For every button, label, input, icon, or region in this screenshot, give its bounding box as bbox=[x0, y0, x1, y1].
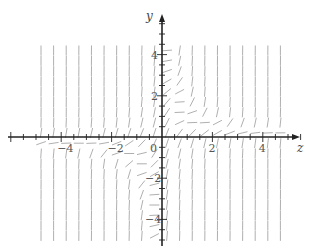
slope-segment bbox=[164, 98, 171, 106]
slope-segment bbox=[192, 56, 193, 66]
slope-segment bbox=[204, 97, 206, 107]
slope-segment bbox=[205, 76, 206, 86]
x-tick-label: −4 bbox=[57, 142, 73, 155]
slope-segment bbox=[104, 118, 105, 128]
slope-segment bbox=[165, 128, 169, 137]
slope-segment bbox=[229, 138, 231, 148]
slope-segment bbox=[255, 138, 256, 148]
slope-segment bbox=[41, 149, 42, 159]
slope-segment bbox=[177, 77, 183, 85]
slope-segment bbox=[230, 97, 231, 107]
slope-segment bbox=[163, 89, 171, 95]
slope-segment bbox=[129, 179, 130, 189]
slope-segment bbox=[238, 132, 248, 134]
slope-segment bbox=[204, 138, 206, 148]
x-axis-arrowhead-icon bbox=[292, 134, 300, 140]
slope-segment bbox=[103, 159, 104, 169]
slope-segment bbox=[142, 76, 143, 86]
slope-segment bbox=[177, 129, 183, 137]
slope-segment bbox=[104, 169, 105, 179]
slope-segment bbox=[79, 159, 80, 169]
slope-segment bbox=[154, 76, 155, 86]
slope-segment bbox=[166, 190, 168, 200]
slope-segment bbox=[166, 138, 169, 148]
slope-segment bbox=[179, 200, 180, 210]
slope-segment bbox=[165, 118, 170, 127]
y-tick-label: 2 bbox=[151, 90, 158, 103]
slope-segment bbox=[91, 159, 92, 169]
slope-segment bbox=[280, 118, 281, 128]
y-tick-label: −2 bbox=[145, 172, 161, 185]
slope-segment bbox=[138, 140, 145, 147]
slope-segment bbox=[192, 149, 194, 159]
slope-segment bbox=[192, 169, 193, 179]
slope-segment bbox=[164, 108, 169, 116]
slope-segment bbox=[217, 138, 219, 148]
slope-segment bbox=[128, 169, 131, 179]
slope-segment bbox=[189, 129, 196, 136]
slope-segment bbox=[116, 118, 117, 128]
slope-segment bbox=[166, 169, 168, 179]
slope-segment bbox=[141, 107, 143, 117]
slope-segment bbox=[192, 66, 193, 76]
slope-segment bbox=[116, 107, 117, 117]
slope-segment bbox=[153, 128, 156, 138]
x-tick-label: 0 bbox=[150, 142, 157, 155]
slope-segment bbox=[230, 107, 231, 117]
slope-segment bbox=[129, 97, 130, 107]
slope-segment bbox=[53, 149, 54, 159]
slope-segment bbox=[267, 138, 268, 148]
slope-segment bbox=[129, 107, 130, 117]
slope-segment bbox=[179, 159, 181, 169]
slope-segment bbox=[178, 139, 182, 148]
slope-segment bbox=[225, 131, 234, 135]
slope-segment bbox=[200, 122, 210, 123]
slope-segment bbox=[153, 118, 156, 128]
slope-segment bbox=[267, 118, 269, 128]
slope-segment bbox=[79, 118, 80, 128]
slope-segment bbox=[142, 87, 143, 97]
slope-segment bbox=[241, 118, 244, 127]
slope-segment bbox=[179, 179, 180, 189]
x-tick-label: −2 bbox=[108, 142, 124, 155]
slope-segment bbox=[230, 149, 231, 159]
slope-segment bbox=[175, 102, 185, 103]
slope-segment bbox=[167, 231, 168, 241]
slope-segment bbox=[162, 60, 172, 62]
slope-segment bbox=[141, 210, 142, 220]
slope-segment bbox=[91, 118, 92, 128]
slope-segment bbox=[90, 149, 93, 158]
slope-segment bbox=[242, 138, 244, 148]
slope-segment bbox=[154, 66, 155, 76]
slope-segment bbox=[141, 221, 142, 231]
slope-segment bbox=[179, 190, 180, 200]
y-axis-arrowhead-icon bbox=[159, 14, 165, 22]
slope-segment bbox=[179, 149, 181, 159]
slope-field-plot: z y −4−202442−2−4 bbox=[0, 0, 327, 251]
slope-segment bbox=[213, 130, 222, 135]
slope-segment bbox=[166, 159, 168, 169]
slope-segment bbox=[163, 79, 172, 84]
slope-segment bbox=[142, 66, 143, 76]
slope-segment bbox=[141, 200, 143, 210]
slope-segment bbox=[192, 159, 193, 169]
slope-segment bbox=[191, 138, 194, 148]
slope-segment bbox=[188, 111, 198, 114]
slope-segment bbox=[242, 149, 243, 159]
slope-segment bbox=[101, 150, 107, 158]
slope-segment bbox=[116, 179, 117, 189]
slope-segment bbox=[162, 69, 172, 72]
slope-segment bbox=[141, 118, 143, 128]
slope-segment bbox=[255, 107, 256, 117]
slope-segment bbox=[129, 190, 130, 200]
slope-segment bbox=[213, 120, 222, 125]
slope-segment bbox=[137, 152, 147, 154]
slope-segment bbox=[203, 108, 208, 117]
slope-segment bbox=[150, 194, 160, 195]
x-tick-label: 4 bbox=[259, 142, 266, 155]
slope-segment bbox=[179, 169, 180, 179]
x-axis-label: z bbox=[296, 141, 304, 155]
slope-segment bbox=[205, 159, 206, 169]
slope-segment bbox=[142, 231, 143, 241]
slope-segment bbox=[125, 140, 133, 146]
